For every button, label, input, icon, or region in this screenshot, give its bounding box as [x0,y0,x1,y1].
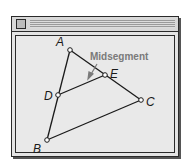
label-e: E [110,67,119,81]
triangle-diagram: A B C D E Midsegment [0,0,191,166]
point-d[interactable] [56,93,61,98]
point-a[interactable] [68,48,73,53]
arrowhead-icon [88,72,93,79]
label-b: B [33,142,41,156]
midsegment-annotation: Midsegment [90,51,149,62]
point-c[interactable] [139,98,144,103]
segment-bc [47,100,141,140]
point-b[interactable] [45,138,50,143]
label-d: D [44,89,53,103]
point-e[interactable] [103,73,108,78]
label-a: A [55,35,64,49]
midsegment-de [58,75,105,95]
label-c: C [146,95,155,109]
